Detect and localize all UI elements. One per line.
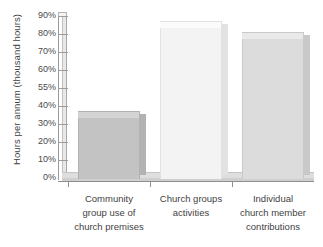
bar-front-face (78, 115, 140, 179)
bar-front-face (160, 25, 222, 179)
x-axis-category-label-line: Individual (225, 192, 321, 206)
bar-front-face (242, 36, 304, 179)
bar-individual-church-member[interactable] (242, 32, 304, 179)
x-axis-tick-mark (68, 181, 69, 187)
y-axis-spine-side (63, 12, 67, 176)
y-axis-title: Hours per annum (thousand hours) (11, 0, 22, 180)
bar-side-face (304, 35, 310, 175)
y-axis-tick-label: 30% (24, 119, 56, 128)
y-axis-tick-mark (58, 88, 68, 89)
x-axis-line (58, 181, 314, 182)
y-axis-tick-mark (58, 124, 68, 125)
x-axis-category-label: Individualchurch membercontributions (225, 192, 321, 234)
bar-top-face (242, 32, 304, 39)
y-axis-spine (58, 12, 67, 180)
y-axis-tick-mark (58, 106, 68, 107)
y-axis-tick-label: 40% (24, 101, 56, 110)
bar-chart: Hours per annum (thousand hours) 90%80%7… (0, 0, 323, 247)
bar-side-face (140, 114, 146, 175)
y-axis-tick-mark (58, 142, 68, 143)
y-axis-tick-mark (58, 16, 68, 17)
bar-church-groups-activities[interactable] (160, 21, 222, 179)
bar-top-face (160, 21, 222, 28)
y-axis-tick-label: 80% (24, 29, 56, 38)
y-axis-tick-label: 20% (24, 137, 56, 146)
y-axis-tick-mark (58, 160, 68, 161)
y-axis-tick-label: 90% (24, 11, 56, 20)
bar-community-group-use[interactable] (78, 111, 140, 179)
y-axis-tick-labels: 90%80%70%60%55%40%30%20%10%0% (24, 0, 56, 247)
y-axis-tick-label: 10% (24, 155, 56, 164)
x-axis-tick-mark (150, 181, 151, 187)
x-axis-tick-mark (232, 181, 233, 187)
x-axis-category-label-line: contributions (225, 220, 321, 234)
bar-top-face (78, 111, 140, 118)
y-axis-tick-mark (58, 34, 68, 35)
bar-side-face (222, 24, 228, 175)
y-axis-tick-mark (58, 52, 68, 53)
y-axis-tick-label: 60% (24, 65, 56, 74)
y-axis-tick-label: 0% (24, 173, 56, 182)
y-axis-tick-label: 55% (24, 83, 56, 92)
x-axis-category-label-line: church premises (61, 220, 157, 234)
y-axis-tick-mark (58, 70, 68, 71)
x-axis-category-label-line: church member (225, 206, 321, 220)
y-axis-tick-label: 70% (24, 47, 56, 56)
